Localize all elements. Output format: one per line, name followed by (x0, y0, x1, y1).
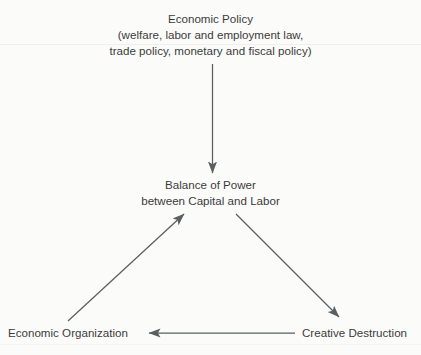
node-economic-policy-line1: Economic Policy (0, 11, 421, 27)
arrow-balance-to-creative-destruction (236, 214, 339, 317)
arrow-organization-to-balance (68, 214, 184, 321)
node-economic-organization-label: Economic Organization (8, 325, 128, 341)
node-creative-destruction-label: Creative Destruction (302, 325, 407, 341)
node-balance-of-power-line2: between Capital and Labor (0, 193, 421, 209)
node-economic-policy-line3: trade policy, monetary and fiscal policy… (0, 43, 421, 59)
node-economic-policy-line2: (welfare, labor and employment law, (0, 27, 421, 43)
node-economic-organization: Economic Organization (8, 325, 128, 341)
node-balance-of-power-line1: Balance of Power (0, 177, 421, 193)
node-creative-destruction: Creative Destruction (302, 325, 407, 341)
node-economic-policy: Economic Policy (welfare, labor and empl… (0, 11, 421, 59)
node-balance-of-power: Balance of Power between Capital and Lab… (0, 177, 421, 209)
diagram-page: THE ECONOMY AND SOCIETY Economic Policy … (0, 0, 421, 355)
